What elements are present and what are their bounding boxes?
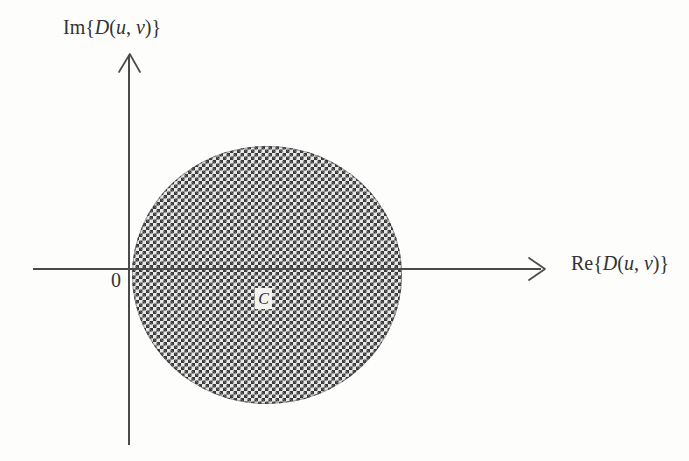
imaginary-axis-line xyxy=(128,55,130,445)
re-var-v: v xyxy=(644,252,653,274)
im-func-d: D xyxy=(95,16,109,38)
re-paren-close: )} xyxy=(653,252,669,274)
real-axis-arrow-icon xyxy=(528,256,554,282)
re-paren-open: ( xyxy=(617,252,624,274)
imaginary-axis-label: Im{D(u, v)} xyxy=(63,16,161,39)
im-var-u: u xyxy=(116,16,126,38)
re-var-u: u xyxy=(624,252,634,274)
real-axis-label: Re{D(u, v)} xyxy=(571,252,669,275)
re-func-d: D xyxy=(603,252,617,274)
im-var-v: v xyxy=(136,16,145,38)
filter-disc xyxy=(132,146,402,404)
imaginary-axis-arrow-icon xyxy=(117,48,143,74)
im-paren-open: ( xyxy=(109,16,116,38)
origin-label: 0 xyxy=(111,269,121,292)
im-comma: , xyxy=(126,16,136,38)
im-prefix: Im{ xyxy=(63,16,95,38)
re-comma: , xyxy=(634,252,644,274)
figure-canvas: C Im{D(u, v)} Re{D(u, v)} 0 xyxy=(0,0,689,461)
im-paren-close: )} xyxy=(145,16,161,38)
disc-label-c: C xyxy=(255,288,272,309)
re-prefix: Re{ xyxy=(571,252,603,274)
real-axis-line-over-disc xyxy=(132,268,402,270)
